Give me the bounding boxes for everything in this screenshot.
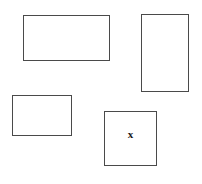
figure-canvas: x <box>0 0 202 184</box>
top-right-rectangle <box>141 14 189 92</box>
top-left-rectangle <box>23 15 110 61</box>
bottom-left-rectangle <box>12 95 72 136</box>
x-mark-label: x <box>105 129 156 140</box>
bottom-right-square: x <box>104 111 157 166</box>
